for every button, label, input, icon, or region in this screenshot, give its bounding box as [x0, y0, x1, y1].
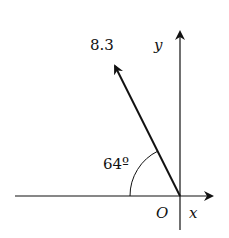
- magnitude-label: 8.3: [90, 38, 114, 53]
- angle-arc: [130, 151, 158, 196]
- y-axis-label: y: [154, 38, 162, 53]
- x-axis-label: x: [189, 206, 197, 221]
- origin-label: O: [156, 206, 168, 221]
- diagram-graphics: [0, 0, 229, 238]
- angle-label: 64º: [103, 157, 129, 172]
- vector-arrow: [115, 66, 180, 196]
- vector-diagram: 8.3 y 64º O x: [0, 0, 229, 238]
